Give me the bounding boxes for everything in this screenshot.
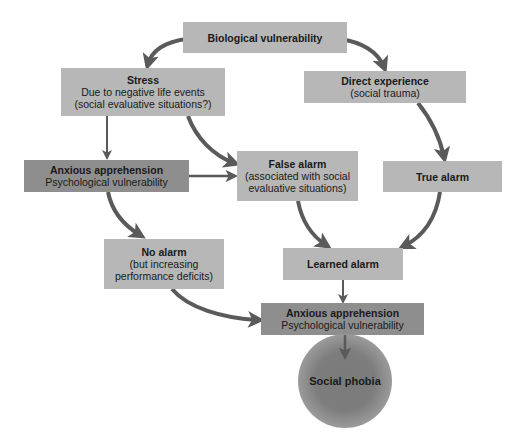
- node-title: True alarm: [416, 171, 469, 183]
- node-title: Direct experience: [341, 75, 429, 87]
- node-line: (social trauma): [350, 87, 419, 99]
- node-title: Stress: [127, 74, 159, 86]
- node-direct-experience: Direct experience (social trauma): [304, 71, 466, 103]
- node-line: Due to negative life events: [81, 86, 205, 98]
- arrow-stress-to-false-alarm: [188, 116, 234, 163]
- node-anxious-apprehension-left: Anxious apprehension Psychological vulne…: [24, 160, 189, 192]
- node-learned-alarm: Learned alarm: [283, 248, 403, 280]
- node-line: performance deficits): [115, 270, 213, 282]
- node-anxious-apprehension-bottom: Anxious apprehension Psychological vulne…: [261, 303, 424, 335]
- arrow-anxious-to-no-alarm: [108, 192, 140, 235]
- node-no-alarm: No alarm (but increasing performance def…: [104, 239, 224, 289]
- node-line: Psychological vulnerability: [281, 319, 404, 331]
- node-stress: Stress Due to negative life events (soci…: [61, 68, 225, 116]
- arrows-layer: [0, 0, 527, 442]
- node-line: Psychological vulnerability: [45, 176, 168, 188]
- arrow-no-alarm-to-anxious: [172, 289, 258, 320]
- arrow-true-to-learned: [404, 192, 440, 246]
- node-biological-vulnerability: Biological vulnerability: [183, 22, 347, 53]
- node-title: No alarm: [142, 246, 187, 258]
- arrow-direct-to-true-alarm: [418, 103, 444, 157]
- node-title: Social phobia: [309, 375, 381, 387]
- node-line: (associated with social: [245, 170, 350, 182]
- node-line: evaluative situations): [248, 182, 346, 194]
- node-title: Biological vulnerability: [208, 32, 323, 44]
- arrow-biological-to-stress: [148, 39, 186, 64]
- node-line: (social evaluative situations?): [74, 98, 211, 110]
- node-title: Anxious apprehension: [50, 164, 163, 176]
- diagram-canvas: Biological vulnerability Stress Due to n…: [0, 0, 527, 442]
- node-false-alarm: False alarm (associated with social eval…: [237, 151, 358, 201]
- node-title: Anxious apprehension: [286, 307, 399, 319]
- node-title: Learned alarm: [307, 258, 379, 270]
- node-title: False alarm: [269, 158, 327, 170]
- node-line: (but increasing: [130, 258, 199, 270]
- node-true-alarm: True alarm: [383, 161, 502, 192]
- arrow-false-to-learned: [298, 201, 326, 245]
- node-social-phobia: Social phobia: [298, 334, 392, 428]
